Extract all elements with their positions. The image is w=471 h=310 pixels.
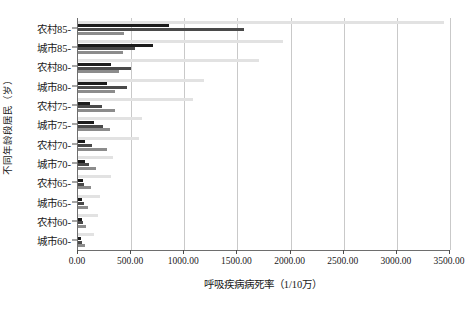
x-axis-tick: [396, 250, 397, 254]
x-axis-line: [77, 250, 449, 251]
bar: [78, 121, 94, 124]
x-axis-tick-label: 0.00: [69, 256, 86, 266]
bar: [78, 82, 107, 85]
y-axis-title: 不同年龄段居民（岁）: [0, 0, 14, 250]
bar-group: [78, 59, 450, 73]
bar: [78, 237, 81, 240]
y-axis-tick-labels: 农村85-城市85-农村80-城市80-农村75-城市75-农村70-城市70-…: [14, 18, 77, 250]
bar: [78, 233, 94, 236]
bar-group: [78, 98, 450, 112]
x-axis-tick: [290, 250, 291, 254]
y-axis-title-text: 不同年龄段居民（岁）: [0, 75, 14, 175]
x-axis-tick: [343, 250, 344, 254]
bar: [78, 244, 85, 247]
bar: [78, 198, 82, 201]
bar-group: [78, 21, 450, 35]
x-axis-tick-label: 500.00: [117, 256, 143, 266]
y-axis-tick-label: 农村80-: [37, 59, 71, 74]
y-axis-tick-label: 城市85-: [37, 40, 71, 55]
bar: [78, 32, 124, 35]
bar: [78, 225, 86, 228]
y-axis-tick-label: 农村70-: [37, 136, 71, 151]
bar: [78, 117, 142, 120]
bar-group: [78, 195, 450, 209]
bar-group: [78, 79, 450, 93]
y-axis-tick-label: 农村75-: [37, 98, 71, 113]
bar: [78, 128, 110, 131]
y-axis-tick-label: 城市65-: [37, 194, 71, 209]
bar-group: [78, 137, 450, 151]
x-axis-tick-label: 3500.00: [434, 256, 465, 266]
bar: [78, 67, 131, 70]
bar: [78, 90, 115, 93]
bar: [78, 59, 259, 62]
x-axis-tick-label: 3000.00: [380, 256, 411, 266]
bar: [78, 40, 283, 43]
bar: [78, 175, 111, 178]
bar: [78, 195, 100, 198]
bar: [78, 202, 84, 205]
y-axis-tick-label: 农村65-: [37, 175, 71, 190]
bar: [78, 183, 84, 186]
bar: [78, 102, 90, 105]
x-axis-tick-label: 1000.00: [168, 256, 199, 266]
bar: [78, 221, 83, 224]
bar-group: [78, 40, 450, 54]
x-axis-tick-label: 1500.00: [221, 256, 252, 266]
bar: [78, 218, 82, 221]
bar: [78, 137, 139, 140]
y-axis-tick-label: 城市70-: [37, 156, 71, 171]
bar: [78, 47, 135, 50]
bar-group: [78, 175, 450, 189]
bar: [78, 70, 119, 73]
y-axis-tick-label: 城市60-: [37, 233, 71, 248]
bar: [78, 140, 85, 143]
plot-area: [77, 18, 450, 250]
bar: [78, 63, 111, 66]
x-axis-tick: [183, 250, 184, 254]
y-axis-tick-label: 城市80-: [37, 78, 71, 93]
bar: [78, 148, 107, 151]
bar: [78, 44, 153, 47]
bar: [78, 105, 102, 108]
x-axis-tick: [130, 250, 131, 254]
bar: [78, 79, 204, 82]
y-axis-tick-label: 农村85-: [37, 20, 71, 35]
bar: [78, 24, 169, 27]
bar: [78, 98, 193, 101]
bar: [78, 241, 82, 244]
respiratory-mortality-bar-chart: 不同年龄段居民（岁） 农村85-城市85-农村80-城市80-农村75-城市75…: [0, 0, 471, 310]
bar: [78, 206, 88, 209]
x-axis-tick-label: 2500.00: [327, 256, 358, 266]
x-axis-tick: [77, 250, 78, 254]
x-axis-tick: [236, 250, 237, 254]
x-axis-tick-label: 2000.00: [274, 256, 305, 266]
bar: [78, 51, 123, 54]
bar: [78, 125, 103, 128]
x-axis-tick: [449, 250, 450, 254]
bar: [78, 21, 444, 24]
bar: [78, 214, 98, 217]
bar: [78, 28, 244, 31]
y-axis-tick-label: 农村60-: [37, 214, 71, 229]
bar: [78, 109, 115, 112]
bar: [78, 167, 96, 170]
y-axis-tick-label: 城市75-: [37, 117, 71, 132]
bar-group: [78, 117, 450, 131]
bar: [78, 163, 89, 166]
gridline: [450, 18, 451, 250]
x-axis-title: 呼吸疾病病死率（1/10万）: [77, 276, 449, 291]
bar: [78, 160, 85, 163]
bar: [78, 156, 113, 159]
bar-group: [78, 156, 450, 170]
bar: [78, 186, 91, 189]
bar: [78, 179, 83, 182]
bar: [78, 86, 127, 89]
bar-group: [78, 233, 450, 247]
bar: [78, 144, 92, 147]
bar-group: [78, 214, 450, 228]
